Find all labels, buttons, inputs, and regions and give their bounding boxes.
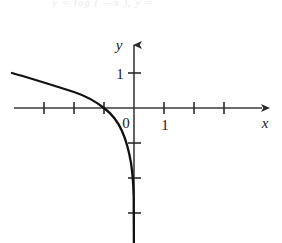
log-curve-plot: y x 0 1 1 — [0, 0, 282, 243]
origin-label: 0 — [122, 115, 130, 131]
x-tick-label-1: 1 — [161, 117, 169, 133]
log-curve-path — [12, 73, 134, 243]
y-tick-label-1: 1 — [116, 66, 124, 82]
x-axis-label: x — [261, 115, 269, 131]
caption-fragment-text: y = log ( —x ), y = — [52, 0, 232, 8]
math-figure: y = log ( —x ), y = — [0, 0, 282, 243]
y-axis-label: y — [114, 37, 123, 53]
